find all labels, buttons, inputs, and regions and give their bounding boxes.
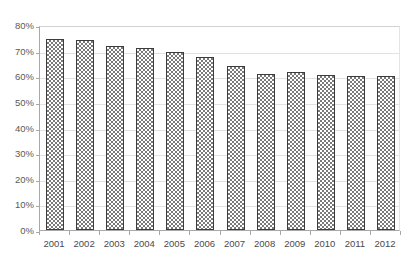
x-tick-label: 2008 (254, 238, 275, 250)
y-tick-label: 30% (0, 149, 34, 159)
bar-slot (100, 27, 130, 230)
bar-slot (221, 27, 251, 230)
bar-slot (341, 27, 371, 230)
y-tick-mark (36, 104, 40, 105)
bar-slot (371, 27, 401, 230)
y-tick-label: 60% (0, 72, 34, 82)
x-tick-mark (39, 231, 40, 235)
bar[interactable] (76, 40, 94, 230)
x-tick-label: 2005 (164, 238, 185, 250)
x-tick-mark (340, 231, 341, 235)
bar[interactable] (136, 48, 154, 230)
bar[interactable] (287, 72, 305, 230)
bar-slot (70, 27, 100, 230)
x-tick-label: 2004 (134, 238, 155, 250)
bar[interactable] (347, 76, 365, 230)
y-tick-label: 40% (0, 124, 34, 134)
y-tick-mark (36, 53, 40, 54)
y-tick-mark (36, 27, 40, 28)
y-tick-mark (36, 155, 40, 156)
bar[interactable] (257, 74, 275, 230)
bar[interactable] (106, 46, 124, 231)
y-tick-mark (36, 206, 40, 207)
bar[interactable] (46, 39, 64, 230)
bar[interactable] (377, 76, 395, 230)
bar-slot (190, 27, 220, 230)
bar-slot (251, 27, 281, 230)
x-tick-label: 2006 (194, 238, 215, 250)
x-tick-label: 2009 (284, 238, 305, 250)
y-axis: 0%10%20%30%40%50%60%70%80% (0, 0, 38, 267)
x-tick-label: 2003 (104, 238, 125, 250)
plot-area (39, 26, 400, 231)
bar[interactable] (227, 66, 245, 230)
x-axis-ticks (39, 231, 400, 236)
bars-layer (40, 27, 399, 230)
x-tick-mark (99, 231, 100, 235)
x-tick-label: 2001 (43, 238, 64, 250)
y-tick-label: 0% (0, 226, 34, 236)
y-tick-mark (36, 181, 40, 182)
y-tick-label: 20% (0, 175, 34, 185)
bar[interactable] (317, 75, 335, 230)
y-tick-label: 70% (0, 47, 34, 57)
x-tick-label: 2010 (314, 238, 335, 250)
bar-slot (40, 27, 70, 230)
x-tick-mark (370, 231, 371, 235)
x-tick-mark (280, 231, 281, 235)
bar-slot (311, 27, 341, 230)
bar-chart: 0%10%20%30%40%50%60%70%80% 2001200220032… (0, 0, 410, 267)
x-tick-mark (69, 231, 70, 235)
x-tick-mark (400, 231, 401, 235)
y-tick-mark (36, 130, 40, 131)
x-tick-label: 2011 (345, 238, 365, 250)
x-axis: 2001200220032004200520062007200820092010… (39, 238, 400, 258)
y-tick-mark (36, 78, 40, 79)
y-tick-label: 80% (0, 21, 34, 31)
bar-slot (130, 27, 160, 230)
bar[interactable] (196, 57, 214, 230)
x-tick-label: 2002 (74, 238, 95, 250)
x-tick-mark (129, 231, 130, 235)
bar-slot (160, 27, 190, 230)
x-tick-mark (159, 231, 160, 235)
x-tick-mark (310, 231, 311, 235)
y-tick-label: 10% (0, 200, 34, 210)
x-tick-mark (250, 231, 251, 235)
bar-slot (281, 27, 311, 230)
y-tick-label: 50% (0, 98, 34, 108)
x-tick-mark (189, 231, 190, 235)
x-tick-label: 2007 (224, 238, 245, 250)
x-tick-label: 2012 (374, 238, 395, 250)
bar[interactable] (166, 52, 184, 230)
x-tick-mark (220, 231, 221, 235)
